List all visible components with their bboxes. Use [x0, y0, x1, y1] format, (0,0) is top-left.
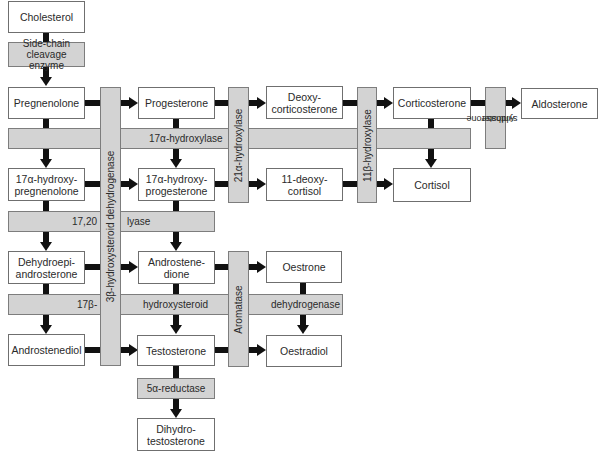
- node-progesterone: Progesterone: [138, 87, 215, 119]
- node-label: Oestrone: [282, 261, 325, 273]
- node-androstenedione: Androstene- dione: [138, 251, 215, 284]
- node-label: pregnenolone: [14, 185, 78, 197]
- node-label: Corticosterone: [398, 97, 466, 109]
- enzyme-label: Aromatase: [233, 285, 244, 333]
- node-label: Progesterone: [145, 97, 208, 109]
- node-17oh-progesterone: 17α-hydroxy- progesterone: [138, 168, 215, 201]
- arrowhead: [257, 178, 266, 190]
- arrowhead: [297, 325, 309, 334]
- node-label: dione: [164, 268, 190, 280]
- arrowhead: [257, 261, 266, 273]
- node-testosterone: Testosterone: [137, 335, 215, 366]
- node-label: 17α-hydroxy-: [16, 173, 78, 185]
- enzyme-label: 21α-hydroxylase: [233, 108, 244, 182]
- arrowhead: [425, 159, 437, 168]
- enzyme-aromatase: Aromatase: [228, 251, 249, 367]
- node-oestradiol: Oestradiol: [266, 335, 342, 367]
- enzyme-label: 17,20: [72, 212, 97, 231]
- node-label: Dihydro-: [156, 423, 196, 435]
- arrowhead: [384, 97, 393, 109]
- node-label: Androstenediol: [11, 344, 81, 356]
- node-label: Cortisol: [414, 179, 450, 191]
- node-label: Aldosterone: [531, 98, 587, 110]
- enzyme-17b-hydroxysteroid-dehydrogenase: 17β- hydroxysteroid dehydrogenase: [8, 294, 343, 315]
- node-label: Testosterone: [146, 345, 206, 357]
- node-oestrone: Oestrone: [266, 251, 342, 283]
- node-deoxycorticosterone: Deoxy- corticosterone: [266, 86, 343, 119]
- node-androstenediol: Androstenediol: [8, 334, 85, 366]
- enzyme-label: lyase: [127, 212, 150, 231]
- enzyme-label: cleavage enzyme: [9, 49, 84, 71]
- enzyme-aldosterone-synthase: Aldosterone synthase: [485, 87, 506, 149]
- node-corticosterone: Corticosterone: [393, 87, 471, 119]
- arrowhead: [170, 159, 182, 168]
- enzyme-5a-reductase: 5α-reductase: [137, 378, 215, 399]
- enzyme-label: dehydrogenase: [271, 295, 340, 314]
- node-dihydrotestosterone: Dihydro- testosterone: [137, 418, 215, 451]
- enzyme-label-group: Aldosterone synthase: [487, 94, 505, 142]
- arrowhead: [40, 242, 52, 251]
- arrowhead: [40, 159, 52, 168]
- enzyme-label: 17α-hydroxylase: [149, 129, 223, 148]
- arrowhead: [129, 97, 138, 109]
- enzyme-3b-hydroxysteroid-dehydrogenase: 3β-hydroxysteroid dehydrogenase: [100, 87, 121, 366]
- node-label: Cholesterol: [20, 11, 73, 23]
- enzyme-label: hydroxysteroid: [143, 295, 208, 314]
- node-label: 17α-hydroxy-: [146, 173, 208, 185]
- node-aldosterone: Aldosterone: [521, 88, 598, 119]
- enzyme-label: 3β-hydroxysteroid dehydrogenase: [105, 151, 116, 302]
- arrowhead: [40, 325, 52, 334]
- node-label: testosterone: [147, 435, 205, 447]
- node-cortisol: Cortisol: [393, 168, 471, 202]
- enzyme-label: 5α-reductase: [147, 383, 206, 394]
- enzyme-label: 17β-: [77, 295, 97, 314]
- node-label: Dehydroepi-: [18, 256, 75, 268]
- arrowhead: [512, 97, 521, 109]
- node-11-deoxycortisol: 11-deoxy- cortisol: [266, 168, 343, 201]
- node-17oh-pregnenolone: 17α-hydroxy- pregnenolone: [8, 168, 85, 201]
- steroidogenesis-diagram: Side-chain cleavage enzyme 17α-hydroxyla…: [0, 0, 603, 457]
- arrowhead: [170, 325, 182, 334]
- node-label: Pregnenolone: [14, 97, 79, 109]
- node-cholesterol: Cholesterol: [8, 1, 85, 33]
- arrowhead: [257, 344, 266, 356]
- node-pregnenolone: Pregnenolone: [8, 87, 85, 119]
- arrowhead: [257, 97, 266, 109]
- arrowhead: [40, 77, 52, 86]
- node-dhea: Dehydroepi- androsterone: [8, 251, 85, 284]
- node-label: Oestradiol: [280, 345, 328, 357]
- arrowhead: [129, 261, 138, 273]
- arrowhead: [170, 242, 182, 251]
- enzyme-21a-hydroxylase: 21α-hydroxylase: [228, 87, 249, 203]
- enzyme-label: synthase: [482, 114, 518, 123]
- arrowhead: [129, 178, 138, 190]
- enzyme-side-chain-cleavage: Side-chain cleavage enzyme: [8, 42, 85, 67]
- node-label: Deoxy-: [288, 91, 321, 103]
- enzyme-label: 11β-hydroxylase: [362, 109, 373, 182]
- arrowhead: [170, 409, 182, 418]
- node-label: Androstene-: [148, 256, 205, 268]
- node-label: progesterone: [146, 185, 208, 197]
- node-label: corticosterone: [272, 103, 338, 115]
- arrowhead: [384, 178, 393, 190]
- enzyme-label: Side-chain: [23, 38, 70, 49]
- node-label: cortisol: [288, 185, 321, 197]
- node-label: 11-deoxy-: [282, 173, 328, 185]
- enzyme-11b-hydroxylase: 11β-hydroxylase: [357, 87, 377, 203]
- node-label: androsterone: [16, 268, 78, 280]
